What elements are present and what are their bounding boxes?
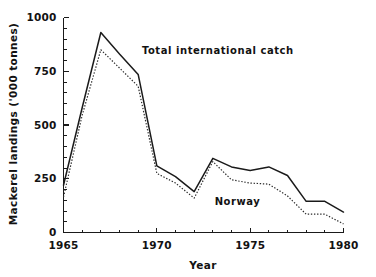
line-chart: 025050075010001965197019751980 Mackerel … (0, 0, 376, 277)
x-tick-label: 1975 (235, 239, 265, 251)
series-line-norway (64, 50, 344, 224)
y-tick-label: 750 (34, 65, 57, 77)
x-tick-label: 1970 (142, 239, 172, 251)
y-tick-label: 500 (34, 119, 57, 131)
series-label-norway: Norway (215, 196, 261, 207)
y-tick-label: 1000 (26, 11, 56, 23)
x-axis-title: Year (188, 259, 217, 271)
y-axis-title: Mackerel landings ('000 tonnes) (7, 23, 19, 226)
series-line-total-international-catch (64, 33, 344, 213)
series-label-total-international-catch: Total international catch (142, 45, 294, 56)
chart-figure: 025050075010001965197019751980 Mackerel … (0, 0, 376, 277)
y-tick-label: 0 (49, 226, 57, 238)
x-tick-label: 1980 (328, 239, 358, 251)
x-tick-label: 1965 (48, 239, 78, 251)
y-tick-label: 250 (34, 172, 57, 184)
chart-series (64, 33, 344, 224)
